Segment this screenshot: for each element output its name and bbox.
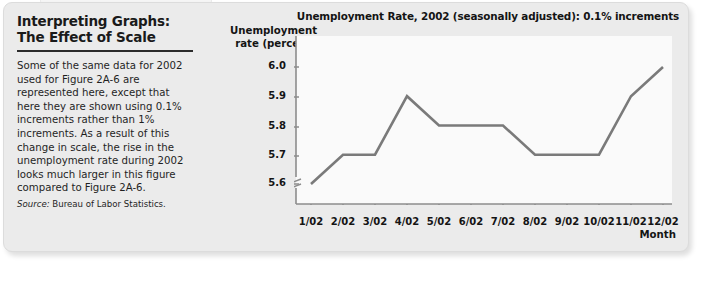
y-tick-label-0: 6.0	[244, 60, 286, 71]
source-text: Bureau of Labor Statistics.	[50, 199, 166, 209]
page-title: Interpreting Graphs: The Effect of Scale	[17, 13, 197, 45]
x-tick-label-4: 5/02	[422, 216, 456, 227]
chart: Unemployment Rate, 2002 (seasonally adju…	[236, 7, 688, 247]
title-divider	[17, 50, 193, 52]
x-tick-label-6: 7/02	[486, 216, 520, 227]
x-tick-label-2: 3/02	[358, 216, 392, 227]
x-tick-label-8: 9/02	[550, 216, 584, 227]
figure-page: Interpreting Graphs: The Effect of Scale…	[0, 0, 702, 281]
chart-svg	[294, 36, 672, 205]
sidebar-text-column: Interpreting Graphs: The Effect of Scale…	[17, 13, 197, 210]
x-tick-label-11: 12/02	[646, 216, 680, 227]
y-tick-label-3: 5.7	[244, 149, 286, 160]
x-tick-label-9: 10/02	[582, 216, 616, 227]
source-label: Source:	[17, 199, 50, 209]
x-axis-title: Month	[639, 229, 676, 240]
figure-card: Interpreting Graphs: The Effect of Scale…	[3, 2, 689, 252]
x-tick-label-1: 2/02	[326, 216, 360, 227]
x-tick-label-10: 11/02	[614, 216, 648, 227]
unemployment-rate-line	[311, 67, 663, 184]
y-tick-label-1: 5.9	[244, 90, 286, 101]
y-tick-label-4: 5.6	[244, 177, 286, 188]
x-tick-label-0: 1/02	[294, 216, 328, 227]
chart-title: Unemployment Rate, 2002 (seasonally adju…	[288, 10, 688, 22]
y-tick-label-2: 5.8	[244, 120, 286, 131]
x-tick-label-3: 4/02	[390, 216, 424, 227]
sidebar-body-text: Some of the same data for 2002 used for …	[17, 59, 195, 195]
x-tick-label-7: 8/02	[518, 216, 552, 227]
source-note: Source: Bureau of Labor Statistics.	[17, 199, 197, 210]
plot-area: 6.0 5.9 5.8 5.7 5.6 1/02 2/02 3/02 4/02 …	[294, 36, 672, 205]
x-tick-label-5: 6/02	[454, 216, 488, 227]
